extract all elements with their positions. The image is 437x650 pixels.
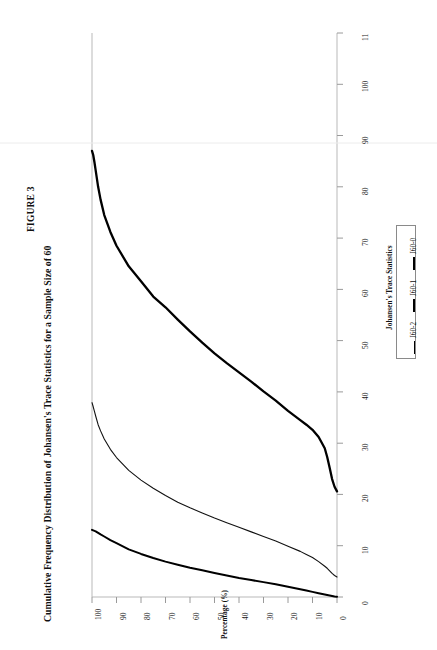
percentage-tick-label: 100 (95, 609, 102, 620)
trace-tick-label: 10 (362, 546, 369, 553)
trace-tick-label: 100 (362, 81, 369, 92)
series-line-j60-0 (92, 151, 337, 491)
trace-tick-label: 0 (362, 601, 369, 605)
legend-swatch-icon (413, 257, 415, 270)
legend-item-label: J60-2 (410, 322, 418, 338)
legend-swatch-icon (414, 341, 415, 354)
trace-tick-label: 30 (362, 444, 369, 451)
trace-axis-title: Johansen's Trace Statistics (387, 245, 394, 330)
series-line-j60-1 (92, 403, 337, 577)
legend-swatch-icon (413, 299, 414, 312)
legend-item[interactable]: J60-0 (410, 238, 418, 270)
trace-tick-label: 60 (362, 290, 369, 297)
percentage-tick-label: 10 (316, 613, 323, 620)
percentage-axis-ticks (92, 597, 337, 603)
trace-tick-label: 80 (362, 187, 369, 194)
percentage-tick-label: 0 (340, 616, 347, 620)
percentage-tick-label: 30 (267, 613, 274, 620)
figure-root: FIGURE 3 Cumulative Frequency Distributi… (0, 0, 437, 650)
trace-tick-label: 90 (362, 136, 369, 143)
trace-tick-label: 11 (362, 34, 369, 41)
legend-item-label: J60-1 (410, 280, 418, 296)
percentage-axis-title: Percentage (%) (222, 590, 229, 639)
plot-canvas (0, 0, 437, 650)
percentage-tick-label: 20 (291, 613, 298, 620)
trace-tick-label: 70 (362, 239, 369, 246)
percentage-tick-label: 90 (120, 613, 127, 620)
trace-tick-label: 40 (362, 393, 369, 400)
legend-box: J60-2J60-1J60-0 (396, 225, 416, 359)
percentage-tick-label: 80 (144, 613, 151, 620)
legend-item[interactable]: J60-1 (410, 280, 418, 312)
trace-axis-ticks (337, 33, 343, 597)
percentage-tick-label: 60 (193, 613, 200, 620)
legend-item-label: J60-0 (410, 238, 418, 254)
percentage-tick-label: 40 (242, 613, 249, 620)
trace-tick-label: 20 (362, 495, 369, 502)
trace-tick-label: 50 (362, 341, 369, 348)
series-line-j60-2 (92, 530, 337, 597)
percentage-tick-label: 70 (169, 613, 176, 620)
legend-item[interactable]: J60-2 (410, 322, 418, 354)
